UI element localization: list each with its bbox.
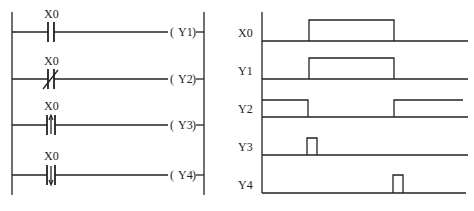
svg-text:): )	[192, 168, 196, 182]
coil-y4: (	[170, 168, 174, 182]
contact-label-1: X0	[44, 7, 59, 21]
waveform-y1	[262, 58, 468, 79]
signal-label-y3: Y3	[238, 140, 253, 154]
contact-label-2: X0	[44, 54, 59, 68]
coil-y4-label: Y4	[178, 168, 193, 182]
contact-label-4: X0	[44, 149, 59, 163]
waveform-x0	[262, 20, 468, 41]
svg-text:): )	[192, 72, 196, 86]
rung-2	[12, 69, 204, 89]
signal-label-y1: Y1	[238, 64, 253, 78]
waveform-y3	[262, 138, 468, 155]
coil-y3: (	[170, 118, 174, 132]
svg-text:): )	[192, 118, 196, 132]
signal-label-y4: Y4	[238, 178, 253, 192]
waveform-y2	[262, 100, 468, 117]
svg-text:): )	[192, 25, 196, 39]
rung-1	[12, 22, 204, 42]
ladder-timing-diagram: ( Y1 ) ( Y2 ) ( Y3 ) ( Y4 ) X0 X0 X0 X0 …	[0, 0, 474, 211]
coil-y1: (	[170, 25, 174, 39]
rung-4	[12, 165, 204, 185]
contact-label-3: X0	[44, 99, 59, 113]
coil-y2: (	[170, 72, 174, 86]
rung-3	[12, 115, 204, 135]
signal-label-x0: X0	[238, 26, 253, 40]
waveform-y4	[262, 175, 466, 193]
coil-y1-label: Y1	[178, 25, 193, 39]
signal-label-y2: Y2	[238, 102, 253, 116]
coil-y3-label: Y3	[178, 118, 193, 132]
coil-y2-label: Y2	[178, 72, 193, 86]
